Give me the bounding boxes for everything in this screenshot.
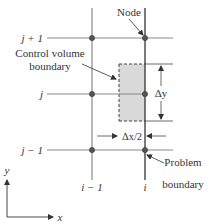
node-icon xyxy=(89,91,94,96)
node-leader-arrow xyxy=(129,19,143,35)
node-icon xyxy=(89,35,94,40)
control-volume-label-line2: boundary xyxy=(29,60,71,72)
node-icon xyxy=(142,147,147,152)
x-axis-label: x xyxy=(57,211,63,223)
col-label-i-minus-1: i − 1 xyxy=(81,181,102,193)
problem-boundary-label-line1: Problem xyxy=(164,156,202,168)
node-label: Node xyxy=(117,6,141,18)
delta-x-half-label: Δx/2 xyxy=(122,131,142,142)
problem-boundary-label-line2: boundary xyxy=(162,178,204,190)
control-volume-label-line1: Control volume xyxy=(15,47,84,59)
delta-y-label: Δy xyxy=(155,87,168,99)
col-label-i: i xyxy=(143,181,146,193)
row-label-j-plus-1: j + 1 xyxy=(20,32,43,44)
y-axis-label: y xyxy=(4,164,10,176)
control-volume-region xyxy=(119,64,145,121)
problem-boundary-leader-arrow xyxy=(147,155,164,163)
node-icon xyxy=(142,91,147,96)
row-label-j: j xyxy=(38,88,43,100)
node-icon xyxy=(142,35,147,40)
control-volume-leader-arrow xyxy=(82,64,116,79)
finite-difference-grid-diagram: Node j + 1 j j − 1 Control volume bounda… xyxy=(0,0,209,224)
row-label-j-minus-1: j − 1 xyxy=(20,144,43,156)
node-icon xyxy=(89,147,94,152)
